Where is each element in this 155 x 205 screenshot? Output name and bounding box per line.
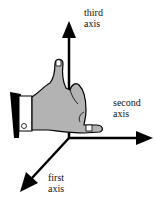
third-axis-label-line2: axis	[84, 18, 103, 29]
first-axis-label-line2: axis	[48, 183, 64, 194]
third-axis-label-line1: third	[84, 7, 103, 18]
hand-icon	[10, 59, 102, 138]
second-axis-label-line2: axis	[113, 108, 141, 119]
third-axis-label: third axis	[84, 7, 103, 29]
second-axis-label: second axis	[113, 97, 141, 119]
first-axis-label: first axis	[48, 172, 64, 194]
first-axis-label-line1: first	[48, 172, 64, 183]
second-axis-label-line1: second	[113, 97, 141, 108]
